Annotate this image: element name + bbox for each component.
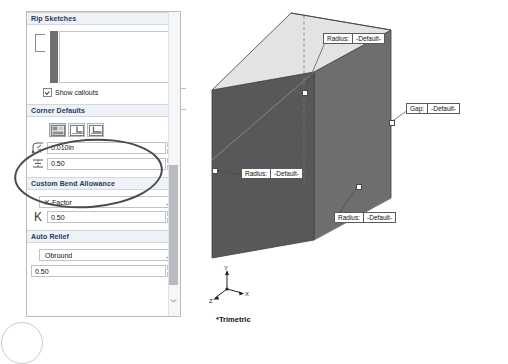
orientation-triad[interactable]: Y X Z (208, 265, 252, 305)
k-factor-row: K 0.50 (31, 211, 176, 223)
anchor-radius-top (302, 90, 308, 96)
auto-relief-type-dropdown[interactable]: Obround (39, 249, 176, 261)
rip-sketch-icon (33, 31, 50, 57)
k-factor-input[interactable]: 0.50 (47, 211, 166, 223)
svg-text:Y: Y (224, 265, 228, 271)
corner-type-closed-button[interactable] (49, 123, 66, 137)
auto-relief-type-value: Obround (45, 252, 72, 259)
callout-radius-left[interactable]: Radius: -Default- (241, 168, 303, 179)
corner-radius-icon: R (31, 141, 45, 154)
svg-text:X: X (245, 291, 249, 297)
section-title-custom-bend-allowance: Custom Bend Allowance (31, 180, 115, 187)
rip-sketch-selection-box[interactable] (59, 31, 176, 83)
callout-label: Radius: (335, 213, 364, 222)
corner-gap-input[interactable]: 0.50 (47, 158, 166, 170)
section-title-auto-relief: Auto Relief (31, 233, 69, 240)
section-title-corner-defaults: Corner Defaults (31, 107, 85, 114)
section-header-auto-relief[interactable]: Auto Relief (27, 230, 180, 243)
corner-radius-input[interactable]: 0.010in (47, 142, 166, 154)
callout-value[interactable]: -Default- (271, 169, 302, 178)
section-header-custom-bend-allowance[interactable]: Custom Bend Allowance (27, 177, 180, 190)
svg-text:R: R (38, 148, 42, 154)
anchor-radius-bottom (356, 184, 362, 190)
callout-label: Radius: (324, 34, 353, 43)
callout-value[interactable]: -Default- (428, 104, 459, 113)
panel-scrollbar-thumb[interactable] (169, 165, 178, 285)
graphics-viewport[interactable]: Radius: -Default- Gap: -Default- Radius:… (186, 0, 508, 343)
section-body-rip-sketches: Show callouts (27, 25, 180, 104)
section-body-custom-bend-allowance: K-Factor K 0.50 (27, 190, 180, 230)
section-body-auto-relief: Obround 0.50 (27, 243, 180, 284)
model-face-left (212, 72, 314, 258)
callout-gap-right[interactable]: Gap: -Default- (406, 103, 460, 114)
section-body-corner-defaults: R 0.010in 0.50 (27, 117, 180, 177)
bend-allowance-type-dropdown[interactable]: K-Factor (39, 196, 176, 208)
svg-text:Z: Z (209, 298, 213, 304)
show-callouts-checkbox[interactable] (43, 88, 52, 97)
corner-gap-row: 0.50 (31, 157, 176, 170)
show-callouts-label: Show callouts (55, 89, 98, 96)
corner-type-overlap-button[interactable] (68, 123, 85, 137)
auto-relief-ratio-input[interactable]: 0.50 (31, 265, 166, 277)
corner-radius-row: R 0.010in (31, 141, 176, 154)
annotation-corner-circle (1, 322, 43, 364)
section-header-rip-sketches[interactable]: Rip Sketches (27, 12, 180, 25)
callout-value[interactable]: -Default- (364, 213, 395, 222)
section-title-rip-sketches: Rip Sketches (31, 15, 76, 22)
bend-allowance-type-value: K-Factor (45, 199, 72, 206)
callout-label: Radius: (242, 169, 271, 178)
rip-sketch-selection-row (31, 31, 176, 83)
scrollbar-down-arrow-icon[interactable] (169, 296, 178, 305)
corner-gap-icon (31, 157, 45, 170)
k-factor-symbol: K (31, 211, 45, 223)
corner-type-button-group (49, 123, 176, 137)
property-manager-panel: Rip Sketches Show callouts Corner Defaul… (26, 11, 181, 317)
section-header-corner-defaults[interactable]: Corner Defaults (27, 104, 180, 117)
view-orientation-label: *Trimetric (216, 315, 251, 324)
anchor-gap-right (389, 120, 395, 126)
callout-label: Gap: (407, 104, 428, 113)
anchor-radius-left (212, 168, 218, 174)
callout-radius-bottom[interactable]: Radius: -Default- (334, 212, 396, 223)
corner-type-underlap-button[interactable] (87, 123, 104, 137)
selection-indicator-bar (50, 31, 58, 83)
show-callouts-row[interactable]: Show callouts (43, 88, 176, 97)
callout-value[interactable]: -Default- (353, 34, 384, 43)
auto-relief-ratio-row: 0.50 (31, 265, 176, 277)
callout-radius-top[interactable]: Radius: -Default- (323, 33, 385, 44)
